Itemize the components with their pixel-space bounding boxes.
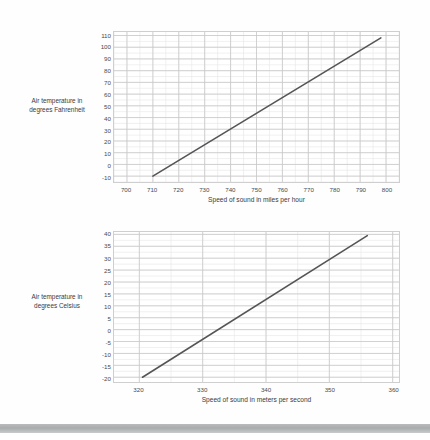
y-tick-fahrenheit-30: 30 — [89, 126, 111, 133]
x-tick-fahrenheit-740: 740 — [225, 186, 235, 193]
y-tick-fahrenheit-10: 10 — [89, 150, 111, 157]
y-tick-celsius-0: 0 — [89, 327, 111, 334]
x-tick-fahrenheit-730: 730 — [199, 186, 209, 193]
y-tick-fahrenheit-70: 70 — [89, 79, 111, 86]
plot-svg-celsius — [114, 232, 399, 382]
y-tick-celsius-35: 35 — [89, 242, 111, 249]
y-tick-fahrenheit-80: 80 — [89, 67, 111, 74]
y-tick-fahrenheit-90: 90 — [89, 55, 111, 62]
y-tick-fahrenheit-110: 110 — [89, 31, 111, 38]
x-axis-title-fahrenheit: Speed of sound in miles per hour — [113, 196, 400, 203]
x-tick-fahrenheit-790: 790 — [356, 186, 366, 193]
x-tick-celsius-360: 360 — [388, 386, 398, 393]
chart-celsius: Air temperature in degrees Celsius -20-1… — [0, 218, 430, 413]
y-tick-celsius-15: 15 — [89, 290, 111, 297]
x-tick-celsius-340: 340 — [261, 386, 271, 393]
y-tick-fahrenheit-60: 60 — [89, 91, 111, 98]
y-tick-fahrenheit--10: -10 — [89, 174, 111, 181]
y-tick-celsius-5: 5 — [89, 314, 111, 321]
page-canvas: Air temperature in degrees Fahrenheit -1… — [0, 0, 430, 440]
y-tick-celsius-40: 40 — [89, 230, 111, 237]
y-tick-fahrenheit-100: 100 — [89, 43, 111, 50]
x-tick-fahrenheit-700: 700 — [121, 186, 131, 193]
chart-fahrenheit: Air temperature in degrees Fahrenheit -1… — [0, 18, 430, 213]
y-tick-celsius-20: 20 — [89, 278, 111, 285]
y-tick-labels-fahrenheit: -100102030405060708090100110 — [87, 31, 111, 183]
x-tick-celsius-330: 330 — [197, 386, 207, 393]
y-tick-celsius-30: 30 — [89, 254, 111, 261]
plot-svg-fahrenheit — [114, 32, 399, 182]
y-tick-celsius--10: -10 — [89, 351, 111, 358]
y-tick-fahrenheit-0: 0 — [89, 162, 111, 169]
y-tick-fahrenheit-40: 40 — [89, 114, 111, 121]
y-tick-celsius-25: 25 — [89, 266, 111, 273]
y-tick-celsius--15: -15 — [89, 363, 111, 370]
x-tick-fahrenheit-800: 800 — [382, 186, 392, 193]
y-tick-labels-celsius: -20-15-10-50510152025303540 — [87, 231, 111, 383]
x-tick-fahrenheit-750: 750 — [251, 186, 261, 193]
y-tick-fahrenheit-50: 50 — [89, 102, 111, 109]
x-tick-fahrenheit-780: 780 — [330, 186, 340, 193]
x-tick-fahrenheit-770: 770 — [304, 186, 314, 193]
page-bottom-band — [0, 424, 430, 433]
y-tick-celsius--5: -5 — [89, 339, 111, 346]
x-tick-celsius-350: 350 — [325, 386, 335, 393]
x-tick-fahrenheit-760: 760 — [277, 186, 287, 193]
page-bottom-margin — [0, 433, 430, 440]
plot-area-celsius — [113, 231, 400, 383]
x-tick-fahrenheit-710: 710 — [147, 186, 157, 193]
x-axis-title-celsius: Speed of sound in meters per second — [113, 396, 400, 403]
y-tick-fahrenheit-20: 20 — [89, 138, 111, 145]
plot-area-fahrenheit — [113, 31, 400, 183]
x-tick-fahrenheit-720: 720 — [173, 186, 183, 193]
x-tick-celsius-320: 320 — [133, 386, 143, 393]
y-tick-celsius-10: 10 — [89, 302, 111, 309]
y-tick-celsius--20: -20 — [89, 375, 111, 382]
